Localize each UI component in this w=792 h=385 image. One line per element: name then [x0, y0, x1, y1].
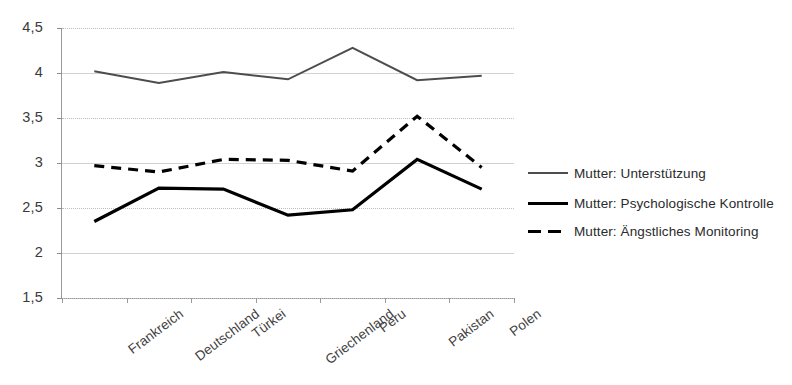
plot-area — [62, 28, 514, 298]
y-axis-tick-label: 3,5 — [0, 110, 52, 125]
chart-legend: Mutter: UnterstützungMutter: Psychologis… — [528, 156, 792, 256]
legend-item[interactable]: Mutter: Unterstützung — [528, 164, 706, 182]
legend-line-swatch — [528, 167, 570, 179]
y-axis-tick-label: 3 — [0, 155, 52, 170]
legend-line-swatch — [528, 197, 570, 209]
y-axis-tick-label: 4,5 — [0, 20, 52, 35]
y-axis-labels: 4,543,532,521,5 — [0, 0, 52, 385]
legend-item[interactable]: Mutter: Psychologische Kontrolle — [528, 194, 774, 212]
series-lines — [62, 28, 514, 298]
series-line-1 — [94, 48, 481, 83]
legend-item-label: Mutter: Unterstützung — [574, 166, 706, 181]
y-axis-tick-label: 2 — [0, 245, 52, 260]
y-axis-tick-label: 1,5 — [0, 290, 52, 305]
x-axis-category-label: Frankreich — [125, 306, 186, 357]
y-axis-tick-label: 4 — [0, 65, 52, 80]
x-axis-category-label: Pakistan — [446, 306, 497, 350]
x-axis-labels: FrankreichDeutschlandTürkeiGriechenlandP… — [62, 300, 522, 385]
legend-item-label: Mutter: Psychologische Kontrolle — [574, 196, 774, 211]
legend-item[interactable]: Mutter: Ängstliches Monitoring — [528, 222, 759, 240]
legend-item-label: Mutter: Ängstliches Monitoring — [574, 224, 759, 239]
x-axis-category-label: Polen — [507, 306, 544, 339]
gridline — [62, 298, 514, 299]
series-line-2 — [94, 159, 481, 221]
chart-figure: 4,543,532,521,5 FrankreichDeutschlandTür… — [0, 0, 792, 385]
legend-line-swatch — [528, 225, 570, 237]
x-axis-category-label: Deutschland — [192, 306, 262, 364]
y-axis-tick-label: 2,5 — [0, 200, 52, 215]
